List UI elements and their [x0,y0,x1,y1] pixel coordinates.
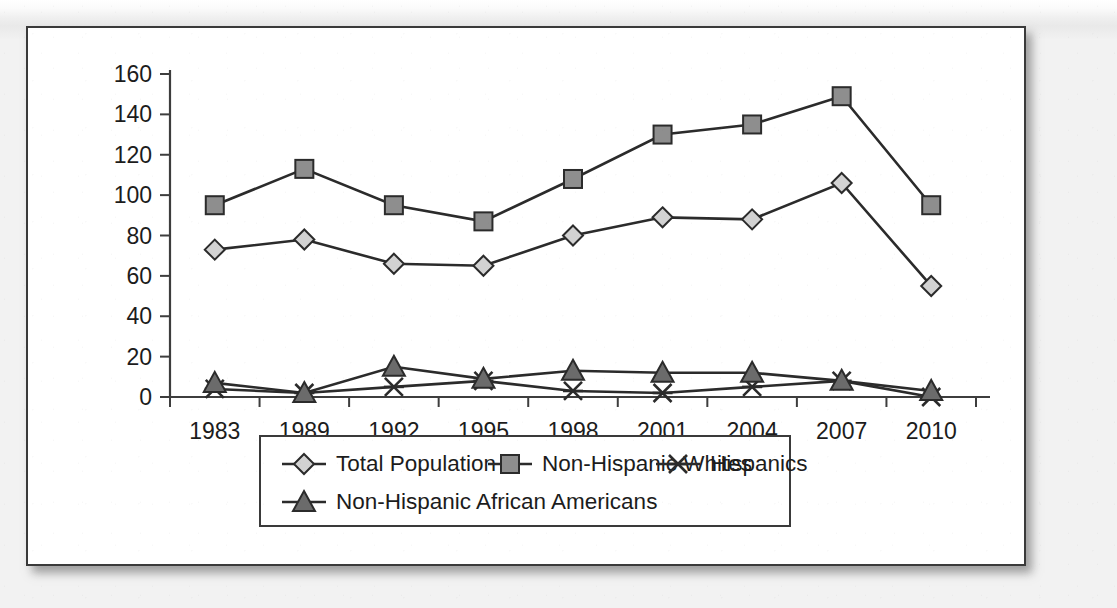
y-tick-label: 80 [126,223,152,249]
y-tick-label: 20 [126,344,152,370]
y-tick-label: 60 [126,263,152,289]
line-chart: 0204060801001201401601983198919921995199… [28,28,1024,564]
series-0-point-3-diamond-marker [473,256,493,276]
chart-plot-area: 0204060801001201401601983198919921995199… [28,28,1024,564]
y-tick-label: 140 [114,101,152,127]
series-0-point-5-diamond-marker [653,207,673,227]
series-3-point-2-triangle-marker [383,356,405,376]
series-1-point-3-square-marker [474,212,492,230]
series-0-point-4-diamond-marker [563,226,583,246]
series-1-point-1-square-marker [295,160,313,178]
series-1-point-6-square-marker [743,115,761,133]
series-1-point-5-square-marker [654,126,672,144]
series-0-point-2-diamond-marker [384,254,404,274]
series-line-1 [215,96,931,221]
legend-non-hispanic-whites-square-marker [501,455,519,473]
legend-label-non-hispanic-african-americans: Non-Hispanic African Americans [336,489,657,514]
series-0-point-1-diamond-marker [294,230,314,250]
x-tick-label: 2007 [816,418,867,444]
x-tick-label: 1983 [189,418,240,444]
series-1-point-2-square-marker [385,196,403,214]
y-tick-label: 0 [139,384,152,410]
series-1-point-8-square-marker [922,196,940,214]
y-tick-label: 100 [114,182,152,208]
y-tick-label: 120 [114,142,152,168]
screenshot-page: 0204060801001201401601983198919921995199… [0,0,1117,608]
legend-label-hispanics: Hispanics [710,451,808,476]
series-1-point-4-square-marker [564,170,582,188]
x-tick-label: 2010 [906,418,957,444]
chart-card: 0204060801001201401601983198919921995199… [26,26,1026,566]
series-1-point-7-square-marker [833,87,851,105]
series-1-point-0-square-marker [206,196,224,214]
legend-label-total-population: Total Population [336,451,496,476]
series-0-point-0-diamond-marker [205,240,225,260]
series-0-point-6-diamond-marker [742,209,762,229]
y-tick-label: 160 [114,61,152,87]
y-tick-label: 40 [126,303,152,329]
